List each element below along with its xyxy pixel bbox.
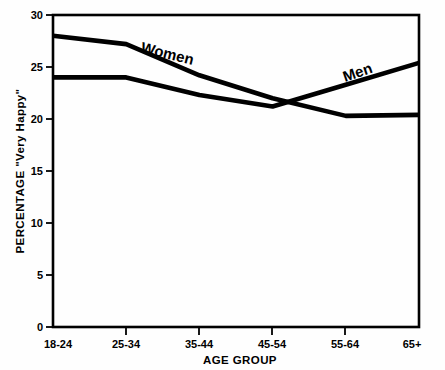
y-tick-label-10: 10 <box>31 217 43 229</box>
x-tick-label-55-64: 55-64 <box>331 338 360 350</box>
x-tick-label-25-34: 25-34 <box>112 338 141 350</box>
y-tick-label-25: 25 <box>31 61 43 73</box>
x-tick-label-35-44: 35-44 <box>185 338 214 350</box>
x-tick-label-45-54: 45-54 <box>258 338 287 350</box>
x-tick-label-18-24: 18-24 <box>44 338 73 350</box>
y-tick-label-15: 15 <box>31 165 43 177</box>
y-axis-title: PERCENTAGE "Very Happy" <box>14 89 26 254</box>
y-tick-label-5: 5 <box>37 269 43 281</box>
y-tick-label-20: 20 <box>31 113 43 125</box>
y-tick-label-0: 0 <box>37 321 43 333</box>
chart-figure: 30 25 20 15 10 5 0 18-24 25-34 35-44 45-… <box>0 0 445 370</box>
y-tick-label-30: 30 <box>31 9 43 21</box>
x-axis-tick-labels: 18-24 25-34 35-44 45-54 55-64 65+ <box>44 338 421 350</box>
line-chart: 30 25 20 15 10 5 0 18-24 25-34 35-44 45-… <box>0 0 445 370</box>
x-tick-label-65-plus: 65+ <box>403 338 422 350</box>
y-axis-tick-labels: 30 25 20 15 10 5 0 <box>31 9 43 333</box>
x-axis-title: AGE GROUP <box>203 354 277 366</box>
